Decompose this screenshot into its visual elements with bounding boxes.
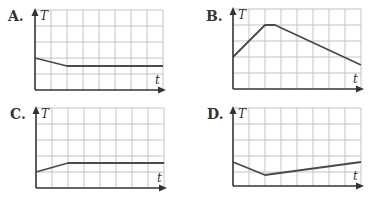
grid-lines — [233, 108, 361, 186]
y-axis-arrow-icon — [230, 106, 237, 114]
graph-d-svg: T t — [0, 0, 374, 209]
x-axis-label: t — [353, 169, 358, 183]
y-axis-label: T — [238, 107, 247, 121]
graph-panel-d: D. T t — [0, 0, 374, 209]
x-axis-arrow-icon — [356, 183, 364, 190]
